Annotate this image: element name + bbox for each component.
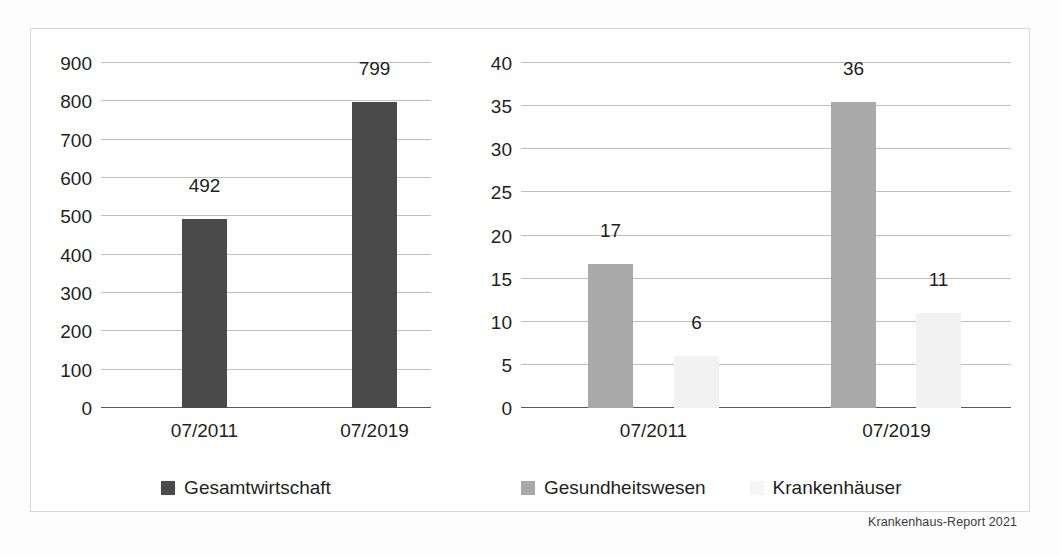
gridline-25 [521, 191, 1011, 192]
right-chart-legend: Gesundheitswesen Krankenhäuser [521, 478, 901, 497]
ytick-label: 40 [491, 54, 512, 73]
left-plot-area: 900 800 700 600 500 400 300 200 100 0 49… [101, 63, 431, 408]
ytick-label: 100 [60, 360, 92, 379]
bar-value-label: 492 [189, 176, 221, 195]
ytick-label: 400 [60, 245, 92, 264]
bar-value-label: 17 [600, 221, 621, 240]
legend-item-gesundheitswesen[interactable]: Gesundheitswesen [521, 478, 706, 497]
gridline-30 [521, 148, 1011, 149]
right-plot-area: 40 35 30 25 20 15 10 5 0 17 6 36 11 [521, 63, 1011, 408]
ytick-label: 600 [60, 169, 92, 188]
legend-item-gesamtwirtschaft[interactable]: Gesamtwirtschaft [161, 478, 331, 497]
bar-value-label: 36 [843, 59, 864, 78]
xtick-label: 07/2011 [620, 421, 687, 440]
bar-value-label: 11 [929, 270, 949, 289]
ytick-label: 15 [491, 269, 512, 288]
ytick-label: 300 [60, 284, 92, 303]
xtick-label: 07/2011 [171, 421, 238, 440]
ytick-label: 10 [491, 312, 512, 331]
xtick-label: 07/2019 [862, 421, 931, 440]
ytick-label: 20 [491, 226, 512, 245]
bar-value-label: 6 [691, 313, 702, 332]
gridline-35 [521, 105, 1011, 106]
legend-item-label: Gesundheitswesen [544, 478, 706, 497]
ytick-label: 25 [491, 183, 512, 202]
ytick-label: 35 [491, 97, 512, 116]
gridline-40 [521, 62, 1011, 63]
figure-frame: 900 800 700 600 500 400 300 200 100 0 49… [30, 28, 1030, 512]
bar-gesamtwirtschaft-2019 [352, 102, 397, 408]
ytick-label: 700 [60, 130, 92, 149]
legend-swatch-icon [750, 481, 764, 495]
ytick-label: 900 [60, 54, 92, 73]
bar-gesamtwirtschaft-2011 [182, 219, 227, 408]
ytick-label: 5 [501, 355, 512, 374]
ytick-label: 200 [60, 322, 92, 341]
ytick-label: 0 [81, 399, 92, 418]
legend-swatch-icon [521, 481, 535, 495]
ytick-label: 800 [60, 92, 92, 111]
left-chart-panel: 900 800 700 600 500 400 300 200 100 0 49… [31, 29, 461, 513]
bar-krankenhaeuser-2011 [674, 356, 719, 408]
left-chart-legend: Gesamtwirtschaft [31, 478, 461, 497]
bar-gesundheitswesen-2019 [831, 102, 876, 408]
legend-item-label: Krankenhäuser [773, 478, 902, 497]
legend-item-label: Gesamtwirtschaft [184, 478, 331, 497]
source-note: Krankenhaus-Report 2021 [868, 515, 1017, 529]
xtick-label: 07/2019 [340, 421, 409, 440]
ytick-label: 0 [501, 399, 512, 418]
legend-item-krankenhaeuser[interactable]: Krankenhäuser [750, 478, 902, 497]
gridline-20 [521, 235, 1011, 236]
ytick-label: 500 [60, 207, 92, 226]
bar-gesundheitswesen-2011 [588, 264, 633, 408]
figure-canvas: 900 800 700 600 500 400 300 200 100 0 49… [0, 0, 1060, 555]
bar-krankenhaeuser-2019 [916, 313, 961, 408]
right-chart-panel: 40 35 30 25 20 15 10 5 0 17 6 36 11 [461, 29, 1031, 513]
legend-swatch-icon [161, 481, 175, 495]
ytick-label: 30 [491, 140, 512, 159]
bar-value-label: 799 [359, 59, 391, 78]
